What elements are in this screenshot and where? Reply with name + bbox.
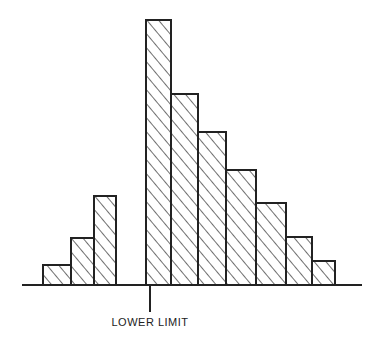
histogram-bar [226,170,256,285]
histogram-bar [198,132,226,285]
lower-limit-label: LOWER LIMIT [90,316,210,328]
histogram-bar [171,94,198,285]
bars [43,20,335,285]
histogram-bar [146,20,171,285]
histogram-bar [286,237,312,285]
histogram-bar [71,238,94,285]
histogram-bar [256,203,286,285]
histogram-chart [0,0,381,350]
histogram-bar [94,196,116,285]
histogram-bar [312,261,335,285]
histogram-bar [43,265,71,285]
